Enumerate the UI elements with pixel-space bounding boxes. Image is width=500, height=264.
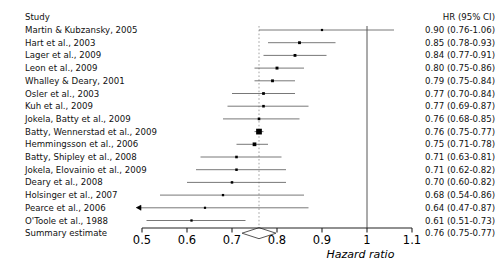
point-estimate-marker	[321, 29, 323, 31]
point-estimate-marker	[253, 142, 257, 146]
point-estimate-marker	[235, 168, 237, 170]
point-estimate-marker	[271, 79, 274, 82]
point-estimate-marker	[276, 67, 279, 70]
point-estimate-marker	[294, 54, 297, 57]
forest-plot-canvas	[0, 0, 500, 264]
forest-plot-figure: StudyMartin & Kubzansky, 2005Hart et al.…	[0, 0, 500, 264]
point-estimate-marker	[262, 105, 265, 108]
point-estimate-marker	[222, 194, 224, 196]
point-estimate-marker	[262, 92, 265, 95]
point-estimate-marker	[204, 207, 206, 209]
x-axis-tick-label: 0.6	[167, 233, 207, 247]
x-axis-tick-label: 0.7	[212, 233, 252, 247]
ci-left-arrowhead	[136, 205, 141, 210]
point-estimate-marker	[190, 219, 192, 221]
x-axis-tick-label: 0.5	[122, 233, 162, 247]
x-axis-tick-label: 0.9	[302, 233, 342, 247]
point-estimate-marker	[235, 156, 238, 159]
point-estimate-marker	[231, 181, 233, 183]
x-axis-tick-label: 1	[347, 233, 387, 247]
x-axis-tick-label: 0.8	[257, 233, 297, 247]
axis-title-hazard-ratio: Hazard ratio	[327, 248, 395, 261]
point-estimate-marker	[258, 118, 261, 121]
point-estimate-marker	[298, 41, 301, 44]
point-estimate-marker	[256, 129, 262, 135]
x-axis-tick-label: 1.1	[392, 233, 432, 247]
